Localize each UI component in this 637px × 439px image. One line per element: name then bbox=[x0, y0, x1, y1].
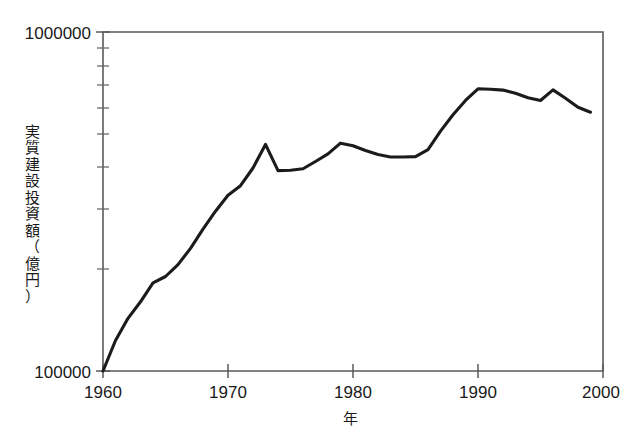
x-tick-label-1970: 1970 bbox=[209, 383, 247, 402]
plot-border bbox=[103, 32, 603, 371]
y-tick-label-bottom: 100000 bbox=[34, 363, 91, 382]
data-series-line bbox=[103, 89, 591, 371]
y-tick-label-top: 1000000 bbox=[25, 24, 91, 43]
plot-frame bbox=[103, 32, 603, 371]
x-tick-label-2000: 2000 bbox=[582, 383, 620, 402]
x-tick-label-1980: 1980 bbox=[334, 383, 372, 402]
y-axis-title: 実質建設投資額（億円） bbox=[25, 123, 40, 305]
x-axis-title: 年 bbox=[343, 410, 358, 427]
chart-figure: 1000000 100000 1960 1970 1980 1990 2000 … bbox=[0, 0, 637, 439]
line-chart-svg: 1000000 100000 1960 1970 1980 1990 2000 … bbox=[0, 0, 637, 439]
x-tick-label-1990: 1990 bbox=[459, 383, 497, 402]
x-tick-label-1960: 1960 bbox=[84, 383, 122, 402]
